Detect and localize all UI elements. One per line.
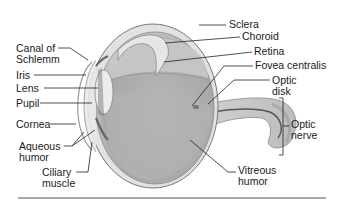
label-fovea-centralis: Fovea centralis — [255, 60, 326, 71]
label-retina: Retina — [254, 46, 284, 57]
label-canal-of-schlemm: Canal of Schlemm — [16, 43, 60, 65]
label-optic-nerve: Optic nerve — [291, 119, 317, 141]
label-sclera: Sclera — [229, 19, 259, 30]
label-vitreous-humor: Vitreous humor — [238, 165, 276, 187]
label-cornea: Cornea — [16, 119, 50, 130]
label-ciliary-muscle: Ciliary muscle — [42, 167, 75, 189]
cornea-shape — [78, 60, 96, 152]
label-pupil: Pupil — [16, 98, 39, 109]
label-iris: Iris — [16, 70, 30, 81]
label-aqueous-humor: Aqueous humor — [19, 141, 60, 163]
fovea-shape — [193, 105, 199, 109]
label-choroid: Choroid — [242, 31, 279, 42]
label-optic-disk: Optic disk — [272, 75, 297, 97]
label-lens: Lens — [16, 83, 39, 94]
